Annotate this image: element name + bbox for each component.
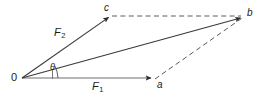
label-point-b: b (247, 8, 253, 18)
label-force-1: F1 (92, 81, 103, 92)
label-point-c: c (104, 3, 109, 13)
label-origin: 0 (11, 72, 17, 83)
label-force-1-subscript: 1 (99, 85, 103, 94)
vector-diagram-canvas (0, 0, 260, 97)
label-force-2: F2 (54, 27, 65, 38)
label-force-1-symbol: F (92, 80, 99, 92)
label-force-2-symbol: F (54, 26, 61, 38)
label-point-a: a (157, 80, 163, 90)
construction-line-a-to-b (155, 19, 242, 80)
label-angle-theta: θ (50, 63, 55, 72)
vector-f2-line (22, 17, 109, 78)
label-force-2-subscript: 2 (61, 31, 65, 40)
vector-diagram-figure: 0 a b c F1 F2 θ (0, 0, 260, 97)
